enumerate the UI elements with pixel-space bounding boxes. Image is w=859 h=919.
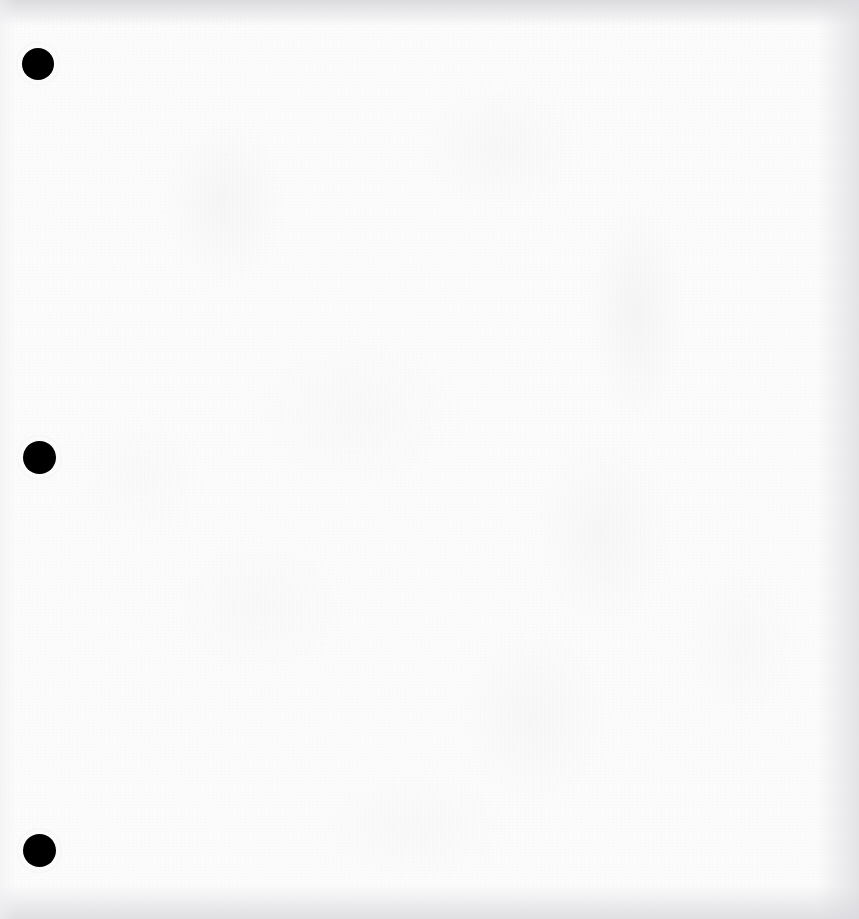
scanned-document-page [0,0,859,919]
hole-punch-top [22,48,54,80]
hole-punch-middle [23,441,56,474]
hole-punch-bottom [23,834,56,867]
page-body-text [80,30,819,889]
